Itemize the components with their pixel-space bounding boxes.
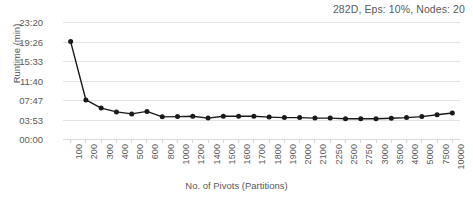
x-tick-label: 3000	[380, 144, 390, 164]
x-tick-mark	[330, 139, 331, 143]
x-tick-mark	[314, 139, 315, 143]
y-tick-label: 11:40	[0, 77, 43, 87]
data-point: 600: 05:30	[144, 109, 149, 114]
data-point: 2750: 04:02	[358, 116, 363, 121]
chart-title: 282D, Eps: 10%, Nodes: 20	[333, 3, 465, 15]
data-point: 1400: 04:10	[206, 116, 211, 121]
x-axis-line	[63, 139, 460, 140]
x-tick-mark	[437, 139, 438, 143]
plot-area: 00:0003:5307:4711:4015:3319:2623:20 1002…	[63, 22, 460, 139]
y-tick-label: 23:20	[0, 18, 43, 28]
data-point: 10000: 05:12	[450, 110, 455, 115]
data-point: 1200: 04:32	[190, 114, 195, 119]
x-tick-label: 2100	[318, 144, 328, 164]
x-tick-mark	[391, 139, 392, 143]
x-tick-mark	[421, 139, 422, 143]
data-point: 500: 05:00	[129, 111, 134, 116]
x-tick-mark	[360, 139, 361, 143]
x-tick-label: 3500	[395, 144, 405, 164]
x-tick-label: 600	[150, 144, 160, 159]
x-tick-label: 1800	[273, 144, 283, 164]
x-tick-mark	[253, 139, 254, 143]
x-tick-label: 10000	[456, 144, 466, 170]
data-point: 2000: 04:16	[297, 115, 302, 120]
data-point: 1900: 04:16	[282, 115, 287, 120]
x-tick-label: 1200	[196, 144, 206, 164]
data-point: 1700: 04:32	[251, 114, 256, 119]
x-tick-mark	[208, 139, 209, 143]
x-tick-label: 200	[89, 144, 99, 159]
chart-container: 282D, Eps: 10%, Nodes: 20 Runtime (min) …	[0, 0, 473, 200]
series-line	[71, 42, 453, 119]
x-tick-label: 2750	[364, 144, 374, 164]
x-tick-mark	[452, 139, 453, 143]
x-tick-label: 1900	[288, 144, 298, 164]
y-tick-label: 19:26	[0, 38, 43, 48]
x-tick-label: 1700	[257, 144, 267, 164]
y-tick-label: 15:33	[0, 57, 43, 67]
x-axis-title: No. of Pivots (Partitions)	[0, 180, 473, 191]
data-point: 1000: 04:28	[175, 114, 180, 119]
data-point: 300: 06:10	[99, 106, 104, 111]
data-point: 2100: 04:10	[312, 116, 317, 121]
data-point: 100: 19:26	[68, 39, 73, 44]
x-tick-mark	[177, 139, 178, 143]
data-point: 800: 04:25	[160, 114, 165, 119]
x-tick-mark	[192, 139, 193, 143]
x-tick-mark	[238, 139, 239, 143]
y-tick-label: 03:53	[0, 116, 43, 126]
x-tick-label: 500	[135, 144, 145, 159]
x-tick-mark	[131, 139, 132, 143]
x-tick-label: 1000	[181, 144, 191, 164]
data-point: 4000: 04:16	[404, 115, 409, 120]
data-point: 2500: 04:02	[343, 116, 348, 121]
x-tick-mark	[269, 139, 270, 143]
data-point: 200: 07:47	[83, 97, 88, 102]
x-tick-label: 5000	[425, 144, 435, 164]
x-tick-label: 4000	[410, 144, 420, 164]
x-tick-label: 7500	[441, 144, 451, 164]
x-tick-label: 1600	[242, 144, 252, 164]
x-tick-label: 100	[74, 144, 84, 159]
data-point: 1600: 04:32	[236, 114, 241, 119]
x-tick-mark	[376, 139, 377, 143]
x-tick-label: 300	[105, 144, 115, 159]
x-tick-label: 2500	[349, 144, 359, 164]
x-tick-label: 2000	[303, 144, 313, 164]
data-point: 400: 05:24	[114, 109, 119, 114]
data-point: 7500: 04:50	[435, 112, 440, 117]
data-point: 5000: 04:28	[419, 114, 424, 119]
x-tick-mark	[406, 139, 407, 143]
x-tick-label: 800	[166, 144, 176, 159]
x-tick-mark	[116, 139, 117, 143]
data-point: 1800: 04:22	[267, 115, 272, 120]
x-tick-label: 1400	[212, 144, 222, 164]
y-tick-label: 07:47	[0, 96, 43, 106]
data-point: 3500: 04:08	[389, 116, 394, 121]
x-tick-label: 400	[120, 144, 130, 159]
x-tick-mark	[223, 139, 224, 143]
data-point: 3000: 04:02	[374, 116, 379, 121]
x-tick-mark	[85, 139, 86, 143]
x-tick-label: 1500	[227, 144, 237, 164]
data-point: 1500: 04:32	[221, 114, 226, 119]
x-tick-mark	[284, 139, 285, 143]
x-tick-mark	[146, 139, 147, 143]
y-tick-label: 00:00	[0, 135, 43, 145]
x-tick-label: 2250	[334, 144, 344, 164]
x-tick-mark	[162, 139, 163, 143]
x-tick-mark	[299, 139, 300, 143]
line-series: 100: 19:26200: 07:47300: 06:10400: 05:24…	[63, 22, 460, 139]
x-tick-mark	[345, 139, 346, 143]
data-point: 2250: 04:10	[328, 116, 333, 121]
x-tick-mark	[101, 139, 102, 143]
x-tick-mark	[70, 139, 71, 143]
